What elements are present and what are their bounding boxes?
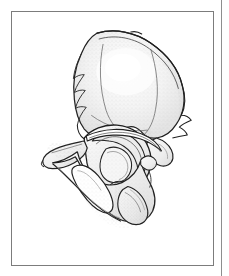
ischial-spine bbox=[141, 156, 157, 170]
figure-frame bbox=[11, 11, 214, 266]
page-column-rule bbox=[221, 0, 222, 276]
ilium-stipple-shading bbox=[71, 30, 190, 143]
page-canvas bbox=[0, 0, 229, 276]
hip-bone-illustration bbox=[12, 12, 213, 265]
